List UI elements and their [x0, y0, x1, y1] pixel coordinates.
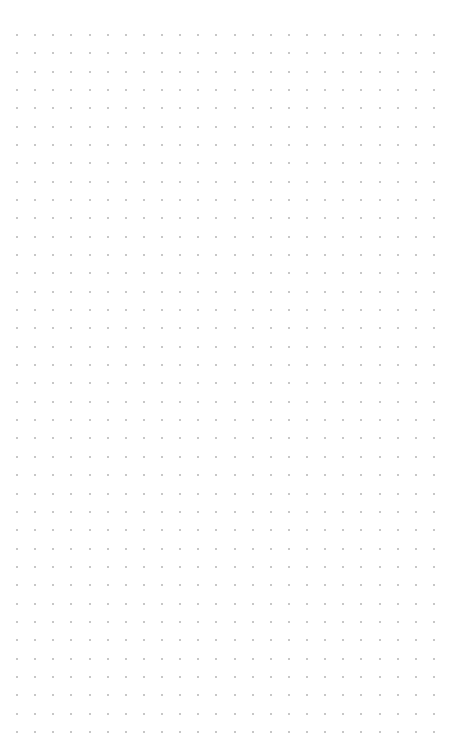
grid-dot — [288, 71, 290, 73]
grid-dot — [397, 713, 399, 715]
grid-dot — [415, 89, 417, 91]
dot-grid-canvas[interactable] — [0, 0, 458, 754]
grid-dot — [415, 254, 417, 256]
grid-dot — [288, 272, 290, 274]
grid-dot — [415, 676, 417, 678]
grid-dot — [397, 52, 399, 54]
grid-dot — [288, 364, 290, 366]
grid-dot — [360, 181, 362, 183]
grid-dot — [70, 401, 72, 403]
grid-dot — [161, 126, 163, 128]
grid-dot — [397, 474, 399, 476]
grid-dot — [288, 584, 290, 586]
grid-dot — [70, 529, 72, 531]
grid-dot — [270, 272, 272, 274]
grid-dot — [34, 144, 36, 146]
grid-dot — [125, 346, 127, 348]
grid-dot — [89, 731, 91, 733]
grid-dot — [16, 639, 18, 641]
grid-dot — [197, 272, 199, 274]
grid-dot — [89, 456, 91, 458]
grid-dot — [234, 162, 236, 164]
grid-dot — [52, 731, 54, 733]
grid-dot — [342, 548, 344, 550]
grid-dot — [125, 511, 127, 513]
grid-dot — [107, 658, 109, 660]
grid-dot — [143, 419, 145, 421]
grid-dot — [143, 437, 145, 439]
grid-dot — [433, 437, 435, 439]
grid-dot — [324, 529, 326, 531]
grid-dot — [34, 254, 36, 256]
grid-dot — [197, 327, 199, 329]
grid-dot — [89, 309, 91, 311]
grid-dot — [70, 694, 72, 696]
grid-dot — [161, 584, 163, 586]
grid-dot — [143, 566, 145, 568]
grid-dot — [215, 493, 217, 495]
grid-dot — [306, 309, 308, 311]
grid-dot — [179, 309, 181, 311]
grid-dot — [306, 603, 308, 605]
grid-dot — [306, 437, 308, 439]
grid-dot — [197, 346, 199, 348]
grid-dot — [179, 107, 181, 109]
grid-dot — [89, 126, 91, 128]
grid-dot — [70, 327, 72, 329]
grid-dot — [161, 34, 163, 36]
grid-dot — [161, 382, 163, 384]
grid-dot — [161, 254, 163, 256]
grid-dot — [125, 493, 127, 495]
grid-dot — [433, 107, 435, 109]
grid-dot — [161, 511, 163, 513]
grid-dot — [306, 584, 308, 586]
grid-dot — [397, 548, 399, 550]
grid-dot — [234, 676, 236, 678]
grid-dot — [16, 603, 18, 605]
grid-dot — [397, 511, 399, 513]
grid-dot — [342, 437, 344, 439]
grid-dot — [16, 199, 18, 201]
grid-dot — [306, 529, 308, 531]
grid-dot — [52, 254, 54, 256]
grid-dot — [161, 217, 163, 219]
grid-dot — [433, 254, 435, 256]
grid-dot — [70, 713, 72, 715]
grid-dot — [415, 199, 417, 201]
grid-dot — [415, 272, 417, 274]
grid-dot — [16, 456, 18, 458]
grid-dot — [324, 621, 326, 623]
grid-dot — [342, 346, 344, 348]
grid-dot — [161, 52, 163, 54]
grid-dot — [324, 346, 326, 348]
grid-dot — [379, 713, 381, 715]
grid-dot — [179, 621, 181, 623]
grid-dot — [179, 658, 181, 660]
grid-dot — [52, 566, 54, 568]
grid-dot — [397, 584, 399, 586]
grid-dot — [107, 309, 109, 311]
grid-dot — [89, 291, 91, 293]
grid-dot — [179, 493, 181, 495]
grid-dot — [34, 639, 36, 641]
grid-dot — [16, 474, 18, 476]
grid-dot — [107, 639, 109, 641]
grid-dot — [107, 89, 109, 91]
grid-dot — [161, 181, 163, 183]
grid-dot — [252, 511, 254, 513]
grid-dot — [16, 382, 18, 384]
grid-dot — [252, 401, 254, 403]
grid-dot — [234, 217, 236, 219]
grid-dot — [415, 327, 417, 329]
grid-dot — [433, 584, 435, 586]
grid-dot — [415, 694, 417, 696]
grid-dot — [234, 291, 236, 293]
grid-dot — [107, 694, 109, 696]
grid-dot — [379, 162, 381, 164]
grid-dot — [70, 621, 72, 623]
grid-dot — [161, 529, 163, 531]
grid-dot — [342, 327, 344, 329]
grid-dot — [270, 694, 272, 696]
grid-dot — [360, 382, 362, 384]
grid-dot — [324, 639, 326, 641]
